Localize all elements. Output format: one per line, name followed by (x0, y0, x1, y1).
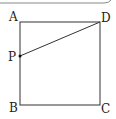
square-abcd (20, 22, 100, 105)
geometry-diagram: A D P B C (0, 0, 116, 119)
top-frame-edge (0, 0, 111, 3)
segment-pd (20, 22, 100, 56)
point-p-dot (19, 55, 22, 58)
label-a: A (8, 10, 18, 24)
label-b: B (9, 101, 18, 115)
label-d: D (101, 11, 111, 25)
label-p: P (8, 50, 16, 64)
label-c: C (101, 102, 110, 116)
